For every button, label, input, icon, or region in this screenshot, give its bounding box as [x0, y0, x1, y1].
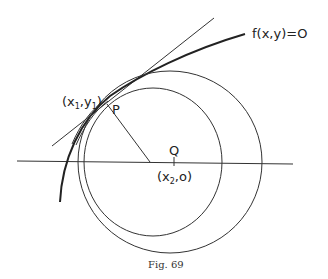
point-p-coords-label: (x1,y1) — [62, 94, 102, 111]
point-q-label: Q — [169, 143, 179, 158]
curve-f — [60, 34, 245, 202]
point-q-coords-label: (x2,o) — [157, 169, 192, 186]
diagram-canvas: f(x,y)=O (x1,y1) P Q (x2,o) Fig. 69 — [0, 0, 328, 279]
curve-label: f(x,y)=O — [252, 26, 307, 41]
figure-caption: Fig. 69 — [148, 259, 184, 270]
point-p-label: P — [112, 102, 120, 117]
x-axis-line — [17, 161, 293, 164]
